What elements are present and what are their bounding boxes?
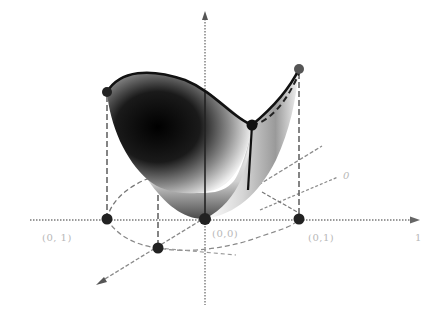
point-base-left <box>102 214 113 225</box>
label-diagonal: 0 <box>343 170 350 181</box>
surface-main-bowl <box>107 73 252 194</box>
point-base-right <box>294 214 305 225</box>
label-left-point: (0, 1) <box>42 232 72 243</box>
diagram-canvas: (0, 1) (0,0) (0,1) 1 0 <box>0 0 445 318</box>
point-top-right <box>294 64 304 74</box>
label-right-point: (0,1) <box>308 232 334 243</box>
label-x-end: 1 <box>415 232 422 243</box>
point-top-left <box>102 87 112 97</box>
point-base-front <box>153 243 164 254</box>
point-mid-right <box>247 120 258 131</box>
point-bottom-center <box>199 213 211 225</box>
label-origin: (0,0) <box>212 228 238 239</box>
x-axis <box>30 217 420 224</box>
surface-diagram <box>0 0 445 318</box>
